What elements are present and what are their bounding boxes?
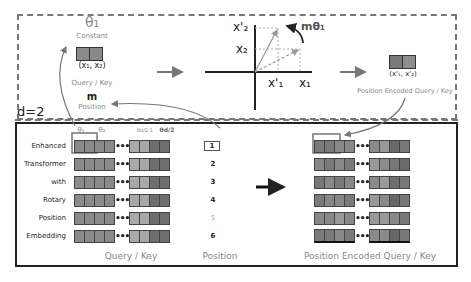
position-number: 2	[206, 160, 220, 168]
encoded-row: •••	[314, 155, 410, 173]
position-footer: Position	[195, 251, 245, 261]
x2-prime-axis-label: x'₂	[233, 20, 248, 34]
theta-d2-1-header: θd/2-1	[134, 127, 156, 133]
position-number: 6	[206, 232, 220, 240]
x1-axis-label: x₁	[299, 76, 311, 90]
ellipsis: •••	[115, 213, 129, 223]
row-word: Enhanced	[6, 142, 66, 150]
output-label: Position Encoded Query / Key	[350, 87, 460, 95]
ellipsis: •••	[355, 159, 369, 169]
position-number: 3	[206, 178, 220, 186]
encoded-row: •••	[314, 137, 410, 155]
encoded-footer: Position Encoded Query / Key	[300, 251, 440, 261]
row-with: with ••• 3	[6, 173, 220, 191]
query-vector-right	[129, 176, 170, 189]
row-word: Embedding	[6, 232, 66, 240]
ellipsis: •••	[115, 141, 129, 151]
encoded-row: •••	[314, 191, 410, 209]
ellipsis: •••	[355, 141, 369, 151]
query-vector-right	[129, 158, 170, 171]
query-vector-left	[74, 158, 115, 171]
encoded-row: •••	[314, 173, 410, 191]
output-pair-vector	[389, 55, 416, 69]
ellipsis: •••	[115, 231, 129, 241]
query-vector-right	[129, 230, 170, 243]
row-embedding: Embedding ••• 6	[6, 227, 220, 245]
position-number: 1	[204, 141, 220, 151]
query-vector-right	[129, 140, 170, 153]
theta-1-header: θ₁	[75, 126, 87, 134]
ellipsis: •••	[115, 195, 129, 205]
output-pair-label: (x'₁, x'₂)	[382, 70, 424, 78]
query-key-rows: Enhanced ••• 1 Transformer ••• 2 with ••…	[6, 137, 220, 245]
ellipsis: •••	[355, 195, 369, 205]
x2-prime-cell	[402, 56, 415, 68]
query-key-footer: Query / Key	[96, 251, 166, 261]
query-vector-left	[74, 194, 115, 207]
row-enhanced: Enhanced ••• 1	[6, 137, 220, 155]
theta-d2-header: θd/2	[158, 126, 176, 133]
query-vector-left	[74, 140, 115, 153]
row-word: Position	[6, 214, 66, 222]
theta-2-header: θ₂	[96, 126, 108, 134]
query-vector-right	[129, 212, 170, 225]
ellipsis: •••	[115, 177, 129, 187]
row-word: Rotary	[6, 196, 66, 204]
query-vector-left	[74, 176, 115, 189]
row-transformer: Transformer ••• 2	[6, 155, 220, 173]
row-word: Transformer	[6, 160, 66, 168]
row-word: with	[6, 178, 66, 186]
encoded-rows: ••• ••• ••• ••• ••• •••	[314, 137, 410, 245]
ellipsis: •••	[115, 159, 129, 169]
ellipsis: •••	[355, 231, 369, 241]
x2-axis-label: x₂	[236, 42, 248, 56]
query-vector-right	[129, 194, 170, 207]
ellipsis: •••	[355, 177, 369, 187]
encoded-row: •••	[314, 209, 410, 227]
row-rotary: Rotary ••• 4	[6, 191, 220, 209]
row-position: Position ••• 5	[6, 209, 220, 227]
x1-prime-cell	[390, 56, 402, 68]
x1-prime-axis-label: x'₁	[268, 76, 283, 90]
query-vector-left	[74, 230, 115, 243]
ellipsis: •••	[355, 213, 369, 223]
position-number: 4	[206, 196, 220, 204]
encoded-row: •••	[314, 227, 410, 245]
rotation-angle-label: mθ₁	[301, 20, 325, 33]
query-vector-left	[74, 212, 115, 225]
position-number: 5	[206, 214, 220, 222]
